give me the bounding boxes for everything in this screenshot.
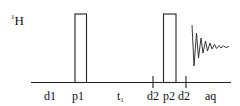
- fid-signal: [192, 25, 229, 66]
- label-aq: aq: [205, 89, 216, 103]
- label-p2: p2: [163, 89, 175, 103]
- pulse-p1: [75, 14, 87, 83]
- nucleus-label: 1H: [11, 13, 24, 28]
- label-t1: t1: [117, 89, 124, 104]
- label-d2-first: d2: [147, 89, 159, 103]
- label-d2-second: d2: [178, 89, 190, 103]
- pulse-p2: [164, 14, 177, 83]
- pulse-sequence-diagram: 1H d1 p1 t1 d2 p2 d2 aq: [0, 0, 240, 106]
- label-d1: d1: [44, 89, 56, 103]
- label-p1: p1: [72, 89, 84, 103]
